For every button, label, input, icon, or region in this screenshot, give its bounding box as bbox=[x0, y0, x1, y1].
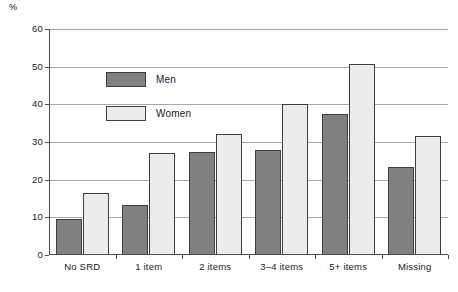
bar-women bbox=[282, 104, 308, 255]
y-axis-tick-label: 60 bbox=[13, 23, 43, 34]
x-axis-tick-label: 2 items bbox=[182, 261, 249, 272]
legend-swatch-women-icon bbox=[106, 106, 146, 121]
y-axis-tick-label: 40 bbox=[13, 98, 43, 109]
x-axis-tick-mark bbox=[315, 255, 316, 259]
bar-men bbox=[189, 152, 215, 255]
x-axis-tick-label: 5+ items bbox=[315, 261, 382, 272]
bar-men bbox=[255, 150, 281, 255]
y-axis-tick-label: 20 bbox=[13, 174, 43, 185]
y-axis-unit-label: % bbox=[9, 2, 17, 12]
bar-men bbox=[388, 167, 414, 255]
x-axis-tick-mark bbox=[448, 255, 449, 259]
y-axis-line bbox=[49, 29, 50, 255]
bar-women bbox=[149, 153, 175, 255]
bar-women bbox=[349, 64, 375, 255]
plot-area: Men Women bbox=[49, 29, 448, 255]
legend-swatch-men-icon bbox=[106, 72, 146, 87]
x-axis-tick-mark bbox=[182, 255, 183, 259]
y-axis-tick-mark bbox=[45, 217, 49, 218]
x-axis-tick-label: 3–4 items bbox=[249, 261, 316, 272]
bar-men bbox=[322, 114, 348, 255]
gridline bbox=[49, 142, 448, 143]
y-axis-tick-label: 30 bbox=[13, 136, 43, 147]
y-axis-tick-labels: 0102030405060 bbox=[9, 29, 43, 255]
legend-label-women: Women bbox=[156, 108, 191, 119]
x-axis-tick-mark bbox=[249, 255, 250, 259]
y-axis-tick-mark bbox=[45, 104, 49, 105]
gridline bbox=[49, 29, 448, 30]
bar-men bbox=[56, 219, 82, 255]
bar-women bbox=[216, 134, 242, 255]
bar-women bbox=[83, 193, 109, 255]
legend-label-men: Men bbox=[156, 74, 176, 85]
y-axis-tick-label: 50 bbox=[13, 61, 43, 72]
y-axis-tick-label: 0 bbox=[13, 249, 43, 260]
x-axis-tick-label: Missing bbox=[382, 261, 449, 272]
legend-item-women: Women bbox=[106, 96, 256, 130]
x-axis-tick-labels: No SRD1 item2 items3–4 items5+ itemsMiss… bbox=[49, 261, 448, 281]
legend: Men Women bbox=[106, 62, 256, 130]
x-axis-tick-mark bbox=[116, 255, 117, 259]
y-axis-tick-mark bbox=[45, 29, 49, 30]
y-axis-tick-mark bbox=[45, 67, 49, 68]
x-axis-tick-label: No SRD bbox=[49, 261, 116, 272]
y-axis-tick-mark bbox=[45, 142, 49, 143]
y-axis-tick-mark bbox=[45, 255, 49, 256]
x-axis-tick-label: 1 item bbox=[116, 261, 183, 272]
x-axis-tick-mark bbox=[382, 255, 383, 259]
legend-item-men: Men bbox=[106, 62, 256, 96]
bar-men bbox=[122, 205, 148, 255]
bar-chart: % 0102030405060 Men Women No SRD1 item2 … bbox=[0, 0, 458, 292]
bar-women bbox=[415, 136, 441, 255]
y-axis-tick-mark bbox=[45, 180, 49, 181]
y-axis-tick-label: 10 bbox=[13, 211, 43, 222]
